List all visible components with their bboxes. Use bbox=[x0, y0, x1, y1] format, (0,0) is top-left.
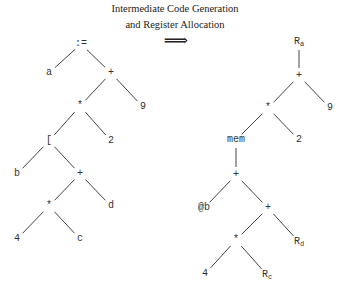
ast-edge bbox=[117, 79, 138, 101]
ir-node-rplus1: + bbox=[296, 71, 302, 81]
ast-edge bbox=[87, 50, 105, 68]
ir-edge bbox=[274, 82, 294, 103]
ast-node-d: d bbox=[108, 201, 114, 211]
ast-node-assign: := bbox=[75, 39, 87, 49]
ir-node-atb: @b bbox=[198, 203, 210, 213]
ir-node-rtwo: 2 bbox=[296, 135, 302, 145]
ir-node-rmul2: * bbox=[233, 235, 239, 245]
ast-edge bbox=[55, 212, 75, 233]
ir-edge bbox=[210, 246, 230, 268]
ast-edge bbox=[86, 79, 106, 100]
ast-edge bbox=[85, 112, 105, 135]
ast-node-mul1: * bbox=[77, 101, 83, 111]
ast-node-plus2: + bbox=[77, 169, 83, 179]
ast-node-a: a bbox=[46, 68, 52, 78]
ast-edge bbox=[23, 212, 44, 234]
ast-node-two: 2 bbox=[108, 136, 114, 146]
ir-edge bbox=[305, 82, 325, 103]
ir-edge bbox=[273, 214, 293, 236]
ir-edge bbox=[242, 114, 263, 135]
ir-node-rplus2: + bbox=[233, 170, 239, 180]
ir-node-rc: Rc bbox=[262, 270, 272, 281]
ir-edge bbox=[242, 181, 263, 203]
ir-node-ra: Ra bbox=[294, 37, 304, 48]
ast-node-four: 4 bbox=[14, 234, 20, 244]
ast-edge bbox=[55, 147, 75, 168]
ast-node-b: b bbox=[14, 169, 20, 179]
ast-node-index: [ bbox=[46, 136, 52, 146]
ir-node-rplus3: + bbox=[265, 203, 271, 213]
ir-node-mem: mem bbox=[227, 135, 245, 145]
ast-edge bbox=[86, 180, 106, 201]
ir-node-rnine: 9 bbox=[327, 103, 333, 113]
ir-node-rd: Rd bbox=[294, 237, 304, 248]
ir-edge bbox=[241, 246, 261, 269]
ir-node-rfour: 4 bbox=[202, 269, 208, 279]
ast-edge bbox=[54, 112, 74, 135]
ast-edge bbox=[23, 147, 44, 169]
ir-edge bbox=[210, 181, 231, 203]
double-arrow-icon: ⟹ bbox=[164, 30, 188, 51]
ir-edge bbox=[274, 114, 294, 135]
caption-line-1: Intermediate Code Generation bbox=[111, 3, 238, 14]
diagram-canvas: Intermediate Code Generation and Registe… bbox=[0, 0, 344, 293]
caption-line-2: and Register Allocation bbox=[125, 19, 224, 30]
ast-node-c: c bbox=[77, 234, 83, 244]
ast-edge bbox=[55, 180, 75, 201]
ir-edge bbox=[242, 214, 263, 235]
ir-node-rmul1: * bbox=[265, 103, 271, 113]
ast-node-mul2: * bbox=[46, 201, 52, 211]
ast-edge bbox=[55, 49, 75, 67]
ast-node-plus1: + bbox=[108, 68, 114, 78]
ast-node-nine: 9 bbox=[140, 102, 146, 112]
